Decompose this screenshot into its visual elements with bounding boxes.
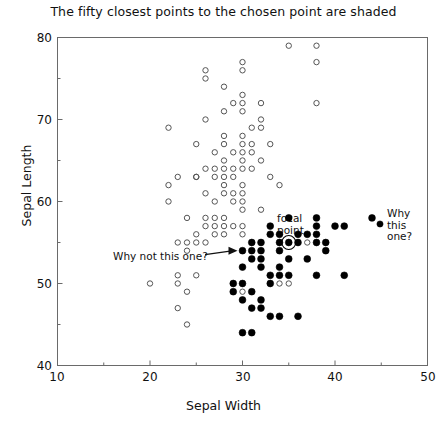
data-point-unshaded <box>212 232 217 237</box>
axis-ticks-group <box>58 38 428 366</box>
data-point-unshaded <box>231 174 236 179</box>
data-point-unshaded <box>305 240 310 245</box>
data-point-unshaded <box>240 166 245 171</box>
data-point-unshaded <box>221 158 226 163</box>
plot-frame <box>58 38 428 366</box>
data-point-unshaded <box>240 100 245 105</box>
data-point-unshaded <box>249 125 254 130</box>
shaded-points-group <box>230 215 376 337</box>
data-point-unshaded <box>231 223 236 228</box>
data-point-unshaded <box>194 141 199 146</box>
data-point-shaded <box>341 223 348 230</box>
data-point-unshaded <box>314 43 319 48</box>
data-point-unshaded <box>212 174 217 179</box>
data-point-shaded <box>285 272 292 279</box>
data-point-unshaded <box>203 223 208 228</box>
data-point-shaded <box>313 223 320 230</box>
data-point-unshaded <box>184 248 189 253</box>
data-point-unshaded <box>221 166 226 171</box>
data-point-unshaded <box>240 232 245 237</box>
data-point-unshaded <box>221 109 226 114</box>
data-point-unshaded <box>240 207 245 212</box>
data-point-shaded <box>258 247 265 254</box>
data-point-shaded <box>248 305 255 312</box>
data-point-unshaded <box>212 199 217 204</box>
data-point-shaded <box>267 313 274 320</box>
data-point-shaded <box>295 231 302 238</box>
data-point-unshaded <box>175 174 180 179</box>
data-point-unshaded <box>212 223 217 228</box>
data-point-shaded <box>248 239 255 246</box>
data-point-unshaded <box>147 281 152 286</box>
data-point-unshaded <box>212 166 217 171</box>
why-this-one-legend-dot <box>377 221 383 227</box>
data-point-unshaded <box>231 100 236 105</box>
data-point-unshaded <box>249 166 254 171</box>
data-point-shaded <box>248 247 255 254</box>
data-point-shaded <box>230 280 237 287</box>
data-point-shaded <box>285 239 292 246</box>
data-point-unshaded <box>184 289 189 294</box>
data-point-unshaded <box>240 133 245 138</box>
data-point-shaded <box>341 272 348 279</box>
data-point-unshaded <box>231 199 236 204</box>
data-point-shaded <box>267 272 274 279</box>
data-point-unshaded <box>240 68 245 73</box>
data-point-unshaded <box>175 305 180 310</box>
data-point-shaded <box>239 247 246 254</box>
data-point-shaded <box>239 280 246 287</box>
data-point-unshaded <box>221 223 226 228</box>
data-point-unshaded <box>212 150 217 155</box>
data-point-unshaded <box>286 281 291 286</box>
data-point-unshaded <box>240 150 245 155</box>
data-point-shaded <box>304 231 311 238</box>
data-point-unshaded <box>184 240 189 245</box>
data-point-shaded <box>285 256 292 263</box>
data-point-unshaded <box>221 133 226 138</box>
data-point-shaded <box>313 215 320 222</box>
data-point-shaded <box>332 223 339 230</box>
data-point-shaded <box>322 239 329 246</box>
data-point-unshaded <box>203 191 208 196</box>
data-point-unshaded <box>277 281 282 286</box>
data-point-unshaded <box>231 166 236 171</box>
data-point-shaded <box>313 272 320 279</box>
data-point-shaded <box>267 280 274 287</box>
data-point-shaded <box>248 256 255 263</box>
data-point-shaded <box>267 231 274 238</box>
data-point-unshaded <box>240 158 245 163</box>
data-point-unshaded <box>203 166 208 171</box>
data-point-unshaded <box>231 191 236 196</box>
data-point-shaded <box>230 288 237 295</box>
data-point-shaded <box>304 256 311 263</box>
data-point-shaded <box>322 247 329 254</box>
data-point-unshaded <box>166 182 171 187</box>
data-point-shaded <box>313 239 320 246</box>
data-point-unshaded <box>314 59 319 64</box>
data-point-shaded <box>285 215 292 222</box>
data-point-unshaded <box>203 117 208 122</box>
data-point-unshaded <box>166 199 171 204</box>
data-point-unshaded <box>194 232 199 237</box>
data-point-unshaded <box>258 117 263 122</box>
plot-frame-group <box>58 38 428 366</box>
data-point-shaded <box>239 297 246 304</box>
data-point-unshaded <box>203 215 208 220</box>
data-point-unshaded <box>286 43 291 48</box>
annotation-decorations-group <box>205 221 383 255</box>
data-point-shaded <box>258 297 265 304</box>
data-point-shaded <box>276 313 283 320</box>
data-point-unshaded <box>194 240 199 245</box>
data-point-unshaded <box>184 322 189 327</box>
data-point-shaded <box>248 329 255 336</box>
data-point-unshaded <box>221 141 226 146</box>
data-point-unshaded <box>203 68 208 73</box>
data-point-shaded <box>276 264 283 271</box>
data-point-unshaded <box>314 100 319 105</box>
data-point-unshaded <box>166 125 171 130</box>
data-point-unshaded <box>240 59 245 64</box>
data-point-unshaded <box>221 232 226 237</box>
data-point-unshaded <box>240 109 245 114</box>
data-point-unshaded <box>268 174 273 179</box>
data-point-unshaded <box>240 92 245 97</box>
